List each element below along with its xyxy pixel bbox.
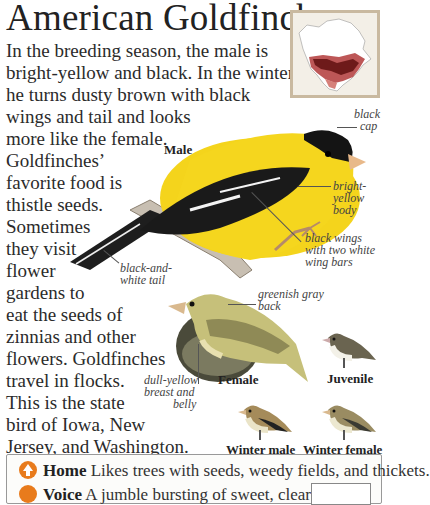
leader-line — [198, 344, 199, 384]
label-breast-line3: belly — [173, 398, 196, 410]
winter-female-illustration — [322, 402, 378, 442]
label-back-line2: back — [258, 300, 281, 312]
intro-line: This is the state — [6, 392, 125, 414]
voice-heading: Voice — [43, 485, 82, 504]
inset-frame — [311, 483, 371, 505]
home-text: Likes trees with seeds, weedy fields, an… — [86, 461, 429, 480]
page-title: American Goldfinch — [6, 0, 315, 39]
leader-line — [298, 186, 331, 187]
intro-line: travel in flocks. — [6, 370, 125, 392]
info-home-row: Home Likes trees with seeds, weedy field… — [19, 461, 430, 481]
home-heading: Home — [43, 461, 86, 480]
range-map — [290, 10, 380, 98]
intro-line: bird of Iowa, New — [6, 414, 145, 436]
home-icon — [19, 461, 37, 479]
leader-line — [228, 304, 256, 305]
winter-male-illustration — [238, 402, 294, 442]
intro-line: In the breeding season, the male is — [6, 40, 268, 62]
intro-line: flowers. Goldfinches — [6, 348, 165, 370]
north-america-map-icon — [293, 13, 377, 95]
juvenile-goldfinch-illustration — [322, 330, 378, 370]
intro-line: zinnias and other — [6, 326, 136, 348]
intro-line: they visit — [6, 238, 76, 260]
intro-line: flower — [6, 260, 56, 282]
label-wings-line3: wing bars — [305, 256, 353, 268]
female-caption: Female — [218, 372, 258, 388]
label-body-line3: body — [333, 204, 356, 216]
intro-line: eat the seeds of — [6, 304, 123, 326]
info-box: Home Likes trees with seeds, weedy field… — [6, 454, 382, 504]
male-caption: Male — [164, 142, 192, 158]
intro-line: bright-yellow and black. In the winter, — [6, 62, 298, 84]
voice-icon — [19, 485, 37, 503]
label-tail-line2: white tail — [120, 274, 165, 286]
label-black-cap-line2: cap — [360, 120, 377, 132]
juvenile-caption: Juvenile — [327, 371, 373, 387]
leader-line — [337, 127, 357, 128]
